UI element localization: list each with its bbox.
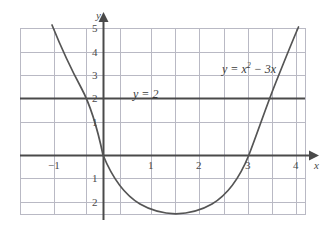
graph-figure: y x −1 1 2 3 4 5 4 3 2 1 1 2 y = x2 − 3x… [0,0,327,226]
grid-horizontal-lines [20,29,305,215]
y-tick-label-4: 4 [92,47,98,58]
y-axis [99,12,109,220]
y-tick-label-2: 2 [92,93,98,104]
x-axis [20,151,319,161]
y-tick-label-neg2: 2 [92,197,98,208]
parabola-equation-prefix: y = x [222,62,247,76]
y-axis-label: y [96,10,101,21]
y-tick-label-neg1: 1 [92,173,98,184]
x-tick-label-neg1: −1 [48,160,60,171]
plot-canvas [0,0,327,226]
x-tick-label-2: 2 [196,160,202,171]
x-tick-label-3: 3 [245,160,251,171]
y-tick-label-3: 3 [92,70,98,81]
grid-vertical-lines [21,28,306,215]
line-equation-label: y = 2 [133,88,158,100]
x-axis-label: x [314,160,319,171]
y-tick-label-1: 1 [92,117,98,128]
x-tick-label-4: 4 [293,160,299,171]
y-tick-label-5: 5 [92,23,98,34]
x-tick-label-1: 1 [148,160,154,171]
parabola-equation-suffix: − 3x [251,62,276,76]
parabola-equation-label: y = x2 − 3x [222,63,276,75]
